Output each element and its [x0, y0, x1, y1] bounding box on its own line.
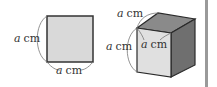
cube-figure: acm acm acm [106, 7, 195, 77]
square-left-label: acm [14, 32, 41, 45]
square-figure: acm acm [14, 16, 93, 77]
cube-left-label: acm [106, 40, 133, 53]
cube-top-label: acm [117, 7, 144, 20]
square-bottom-label: acm [56, 64, 83, 77]
cube-inner-label: acm [141, 38, 168, 51]
side-bar [205, 0, 208, 87]
square-shape [47, 16, 93, 62]
figure-canvas: acm acm acm acm acm [0, 0, 217, 87]
